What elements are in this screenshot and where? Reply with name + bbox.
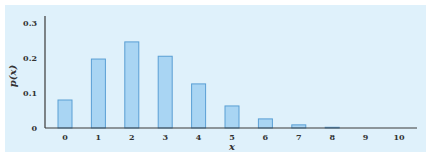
x-tick-9: 9 [363,132,369,142]
x-tick-1: 1 [96,132,102,142]
bar-chart: 00.10.20.3 012345678910 x p(x) [0,0,431,163]
x-tick-4: 4 [196,132,202,142]
bar-4 [192,84,206,128]
y-tick-labels: 00.10.20.3 [23,18,37,133]
y-tick-0: 0 [31,123,37,133]
bar-6 [258,119,272,128]
bar-5 [225,106,239,128]
x-tick-8: 8 [329,132,335,142]
bar-1 [91,59,105,128]
x-tick-3: 3 [162,132,168,142]
y-tick-0.3: 0.3 [23,18,37,28]
x-tick-0: 0 [62,132,68,142]
y-tick-0.2: 0.2 [23,53,37,63]
bar-2 [125,42,139,128]
bar-0 [58,100,72,128]
y-axis-label: p(x) [7,65,18,88]
bar-3 [158,56,172,128]
x-tick-10: 10 [393,132,405,142]
x-tick-6: 6 [263,132,269,142]
y-tick-0.1: 0.1 [23,88,37,98]
x-tick-7: 7 [296,132,302,142]
bars-group [58,42,339,128]
x-tick-2: 2 [129,132,135,142]
x-axis-label: x [228,141,236,152]
